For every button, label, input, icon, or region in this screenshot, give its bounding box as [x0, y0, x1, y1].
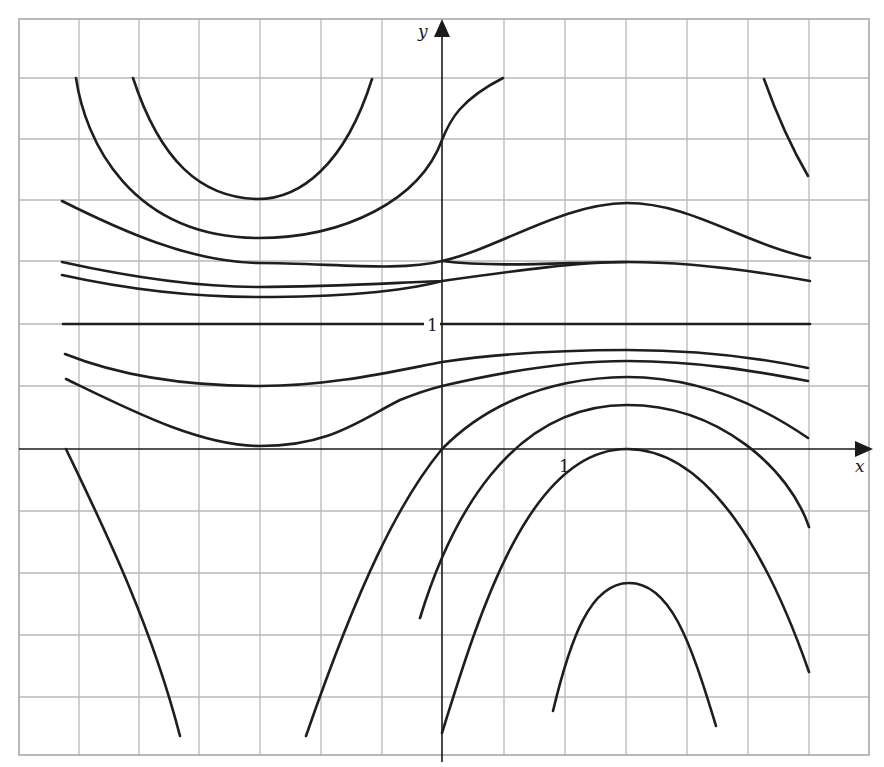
solution-curves	[62, 78, 810, 736]
x-axis-label: x	[855, 456, 865, 476]
y-axis-label: y	[417, 21, 428, 41]
x-axis-arrow-icon	[855, 441, 873, 457]
curve-upper-parabola-outer	[76, 78, 503, 238]
curve-middle-arc-1	[442, 377, 808, 449]
y-axis-arrow-icon	[434, 19, 450, 37]
chart-area: y x 1 1	[0, 0, 884, 767]
grid-frame	[19, 19, 869, 755]
curve-inner-cap	[553, 583, 716, 726]
curve-hump-high	[62, 201, 810, 266]
curve-upper-right-branch	[764, 79, 808, 176]
curve-lower-left-line	[66, 449, 180, 736]
curve-band-3	[65, 350, 808, 386]
grid	[19, 19, 869, 755]
curve-band-4	[66, 361, 808, 446]
curve-lower-mid-line	[306, 449, 442, 736]
x-tick-label-1: 1	[559, 456, 570, 476]
y-tick-label-1: 1	[427, 315, 438, 335]
